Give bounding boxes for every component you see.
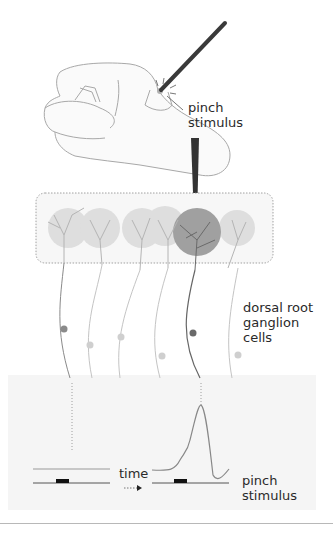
axon-active — [186, 270, 200, 378]
stimulus-bar-left — [56, 479, 69, 483]
diagram-illustration — [0, 0, 333, 534]
label-pinch-stimulus-top: pinch stimulus — [188, 100, 243, 130]
light-axons — [88, 265, 238, 378]
label-pinch-stimulus-bottom: pinch stimulus — [242, 473, 297, 503]
label-time: time — [119, 466, 148, 481]
ganglion-cell-bodies — [61, 326, 242, 360]
response-trace — [152, 405, 229, 479]
axon-1 — [60, 263, 70, 378]
probe-icon — [161, 23, 225, 90]
label-dorsal-root-ganglion: dorsal root ganglion cells — [243, 300, 313, 345]
stimulus-bar-right — [174, 479, 187, 483]
